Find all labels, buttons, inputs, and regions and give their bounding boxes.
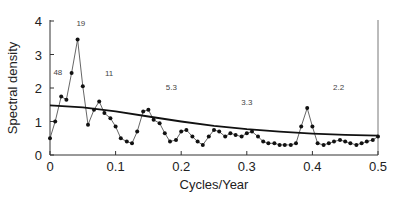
peak-period-label: 2.2 bbox=[333, 83, 345, 92]
peak-period-label: 5.3 bbox=[166, 83, 178, 92]
data-point-marker bbox=[289, 143, 293, 147]
data-point-marker bbox=[196, 140, 200, 144]
x-tick-label: 0.5 bbox=[369, 159, 387, 174]
data-point-marker bbox=[184, 128, 188, 132]
data-point-marker bbox=[256, 135, 260, 139]
data-point-marker bbox=[48, 136, 52, 140]
data-point-marker bbox=[59, 94, 63, 98]
data-point-marker bbox=[163, 131, 167, 135]
data-point-marker bbox=[114, 125, 118, 129]
data-point-marker bbox=[130, 141, 134, 145]
data-point-marker bbox=[365, 140, 369, 144]
data-point-marker bbox=[310, 125, 314, 129]
data-point-marker bbox=[158, 121, 162, 125]
data-point-marker bbox=[338, 138, 342, 142]
data-point-marker bbox=[76, 37, 80, 41]
x-tick-label: 0.2 bbox=[172, 159, 190, 174]
data-point-marker bbox=[174, 138, 178, 142]
x-tick-label: 0.1 bbox=[107, 159, 125, 174]
data-point-marker bbox=[190, 135, 194, 139]
data-point-marker bbox=[70, 71, 74, 75]
data-point-marker bbox=[125, 140, 129, 144]
data-point-marker bbox=[327, 141, 331, 145]
x-axis-ticks: 00.10.20.30.40.5 bbox=[46, 151, 387, 174]
peak-period-label: 11 bbox=[105, 69, 114, 78]
data-point-marker bbox=[266, 141, 270, 145]
data-point-marker bbox=[217, 130, 221, 134]
x-axis-title: Cycles/Year bbox=[180, 177, 250, 192]
data-point-marker bbox=[141, 109, 145, 113]
data-point-marker bbox=[294, 141, 298, 145]
data-point-marker bbox=[108, 116, 112, 120]
data-point-marker bbox=[97, 99, 101, 103]
y-tick-label: 1 bbox=[35, 115, 42, 130]
peak-period-label: 19 bbox=[76, 19, 85, 28]
y-tick-label: 2 bbox=[35, 81, 42, 96]
data-point-marker bbox=[371, 138, 375, 142]
data-point-marker bbox=[354, 143, 358, 147]
data-point-marker bbox=[332, 140, 336, 144]
y-tick-label: 4 bbox=[35, 14, 42, 29]
data-point-marker bbox=[283, 143, 287, 147]
x-tick-label: 0.4 bbox=[303, 159, 321, 174]
data-point-marker bbox=[348, 141, 352, 145]
data-point-marker bbox=[135, 130, 139, 134]
peak-period-label: 48 bbox=[53, 68, 62, 77]
data-series bbox=[48, 37, 380, 146]
data-point-marker bbox=[102, 111, 106, 115]
data-point-marker bbox=[223, 135, 227, 139]
data-point-marker bbox=[360, 141, 364, 145]
peak-annotations: 4819115.33.32.2 bbox=[53, 19, 344, 107]
data-point-marker bbox=[64, 98, 68, 102]
data-point-marker bbox=[272, 141, 276, 145]
data-point-marker bbox=[278, 143, 282, 147]
data-point-marker bbox=[212, 128, 216, 132]
y-tick-label: 3 bbox=[35, 48, 42, 63]
data-point-marker bbox=[240, 135, 244, 139]
data-point-marker bbox=[322, 143, 326, 147]
data-point-marker bbox=[168, 140, 172, 144]
data-point-marker bbox=[305, 106, 309, 110]
data-point-marker bbox=[119, 136, 123, 140]
data-point-marker bbox=[86, 123, 90, 127]
data-point-marker bbox=[316, 141, 320, 145]
data-point-marker bbox=[261, 140, 265, 144]
y-axis-title: Spectral density bbox=[5, 41, 20, 134]
data-point-marker bbox=[146, 108, 150, 112]
data-point-marker bbox=[53, 120, 57, 124]
data-point-marker bbox=[201, 143, 205, 147]
data-point-marker bbox=[207, 135, 211, 139]
peak-period-label: 3.3 bbox=[241, 98, 253, 107]
y-axis-ticks: 01234 bbox=[35, 14, 54, 163]
data-point-marker bbox=[179, 130, 183, 134]
y-tick-label: 0 bbox=[35, 148, 42, 163]
data-point-marker bbox=[81, 84, 85, 88]
spectral-density-chart: 01234 00.10.20.30.40.5 Spectral density … bbox=[0, 0, 406, 201]
data-point-marker bbox=[343, 140, 347, 144]
data-point-marker bbox=[299, 125, 303, 129]
data-point-marker bbox=[228, 131, 232, 135]
x-tick-label: 0 bbox=[46, 159, 53, 174]
data-point-marker bbox=[245, 131, 249, 135]
data-point-marker bbox=[234, 133, 238, 137]
x-tick-label: 0.3 bbox=[238, 159, 256, 174]
